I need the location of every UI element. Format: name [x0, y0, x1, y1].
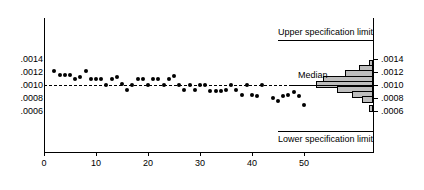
data-point [68, 73, 72, 77]
data-point [63, 73, 67, 77]
data-point [182, 88, 186, 92]
data-point [125, 88, 129, 92]
lower-spec-limit-line [278, 131, 373, 132]
data-point [115, 75, 119, 79]
data-point [78, 75, 82, 79]
x-tick-mark [200, 152, 201, 156]
data-point [240, 93, 244, 97]
data-point [52, 69, 56, 73]
y-tick-mark [373, 85, 378, 86]
y-tick-label-left: .0010 [20, 80, 43, 90]
data-point [110, 77, 114, 81]
data-point [89, 77, 93, 81]
data-point [172, 74, 176, 78]
data-point [297, 94, 301, 98]
data-point [281, 94, 285, 98]
data-point [276, 99, 280, 103]
median-dashed-line [44, 85, 292, 86]
y-tick-label-left: .0008 [20, 93, 43, 103]
data-point [141, 77, 145, 81]
x-tick-label: 0 [41, 158, 46, 168]
x-tick-mark [148, 152, 149, 156]
y-tick-mark [373, 59, 378, 60]
x-tick-label: 30 [195, 158, 205, 168]
y-tick-label-left: .0012 [20, 67, 43, 77]
control-chart: 01020304050 .0014.0012.0010.0008.0006 .0… [0, 0, 424, 190]
data-point [219, 89, 223, 93]
y-tick-mark [373, 72, 378, 73]
y-tick-label-left: .0006 [20, 106, 43, 116]
x-tick-label: 10 [91, 158, 101, 168]
x-tick-label: 40 [247, 158, 257, 168]
upper-spec-limit-label: Upper specification limit [278, 27, 373, 37]
y-tick-mark [373, 98, 378, 99]
data-point [99, 77, 103, 81]
median-solid-line [292, 85, 373, 86]
x-tick-label: 20 [143, 158, 153, 168]
y-tick-label-right: .0008 [381, 93, 404, 103]
data-point [214, 89, 218, 93]
data-point [156, 77, 160, 81]
data-point [94, 77, 98, 81]
data-point [286, 93, 290, 97]
x-tick-mark [44, 152, 45, 156]
data-point [84, 69, 88, 73]
y-tick-mark [373, 111, 378, 112]
data-point [73, 77, 77, 81]
data-point [136, 77, 140, 81]
median-label: Median [298, 70, 328, 80]
data-point [151, 77, 155, 81]
x-tick-mark [252, 152, 253, 156]
data-point [58, 73, 62, 77]
data-point [234, 88, 238, 92]
y-tick-label-right: .0012 [381, 67, 404, 77]
data-point [167, 77, 171, 81]
y-tick-label-left: .0014 [20, 54, 43, 64]
data-point [208, 89, 212, 93]
x-tick-label: 50 [299, 158, 309, 168]
data-point [302, 103, 306, 107]
x-tick-mark [304, 152, 305, 156]
y-tick-label-right: .0010 [381, 80, 404, 90]
histogram-bar [369, 105, 373, 112]
data-point [250, 93, 254, 97]
upper-spec-limit-line [278, 40, 373, 41]
y-tick-label-right: .0014 [381, 54, 404, 64]
data-point [292, 90, 296, 94]
data-point [224, 88, 228, 92]
x-axis [44, 152, 374, 153]
lower-spec-limit-label: Lower specification limit [278, 134, 373, 144]
data-point [271, 96, 275, 100]
data-point [255, 94, 259, 98]
x-tick-mark [96, 152, 97, 156]
histogram-bar [362, 96, 373, 103]
y-tick-label-right: .0006 [381, 106, 404, 116]
data-point [193, 88, 197, 92]
